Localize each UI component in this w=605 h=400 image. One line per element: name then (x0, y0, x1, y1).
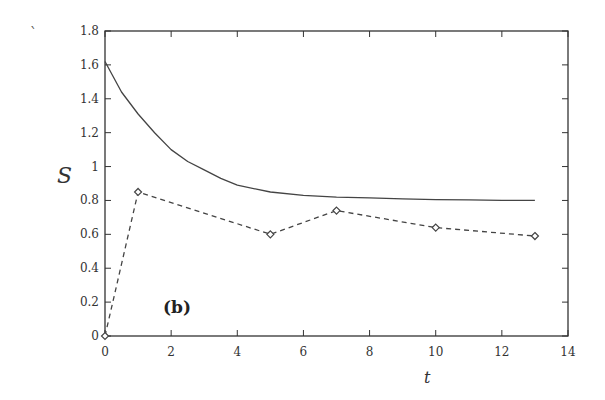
solid-series-line (105, 62, 535, 201)
plot-frame (105, 31, 568, 336)
diamond-marker-icon (102, 333, 109, 340)
x-tick-label: 0 (101, 345, 109, 359)
y-tick-label: 1.4 (80, 92, 99, 106)
x-tick-label: 4 (233, 345, 241, 359)
diamond-marker-icon (333, 207, 340, 214)
stray-mark: ` (30, 25, 37, 41)
y-tick-label: 1.2 (80, 126, 99, 140)
y-tick-label: 0.2 (80, 295, 99, 309)
panel-label: (b) (163, 297, 191, 317)
y-tick-label: 0.6 (80, 227, 99, 241)
y-tick-label: 0.8 (80, 193, 99, 207)
diamond-marker-icon (432, 224, 439, 231)
diamond-marker-icon (267, 231, 274, 238)
y-axis-title: S (57, 163, 72, 188)
line-chart: ` 02468101214 00.20.40.60.811.21.41.61.8… (0, 0, 605, 400)
x-tick-label: 14 (560, 345, 576, 359)
x-tick-label: 8 (366, 345, 374, 359)
x-tick-label: 10 (428, 345, 443, 359)
x-tick-label: 12 (494, 345, 509, 359)
y-tick-label: 0 (91, 329, 99, 343)
y-tick-label: 0.4 (80, 261, 99, 275)
diamond-marker-icon (135, 188, 142, 195)
x-tick-label: 2 (167, 345, 175, 359)
y-tick-label: 1.8 (80, 24, 99, 38)
plot-border (105, 31, 568, 336)
y-tick-label: 1 (91, 160, 99, 174)
x-tick-label: 6 (300, 345, 308, 359)
y-tick-label: 1.6 (80, 58, 99, 72)
y-axis-ticks: 00.20.40.60.811.21.41.61.8 (80, 24, 568, 343)
x-axis-title: t (424, 368, 431, 387)
diamond-marker-icon (531, 233, 538, 240)
